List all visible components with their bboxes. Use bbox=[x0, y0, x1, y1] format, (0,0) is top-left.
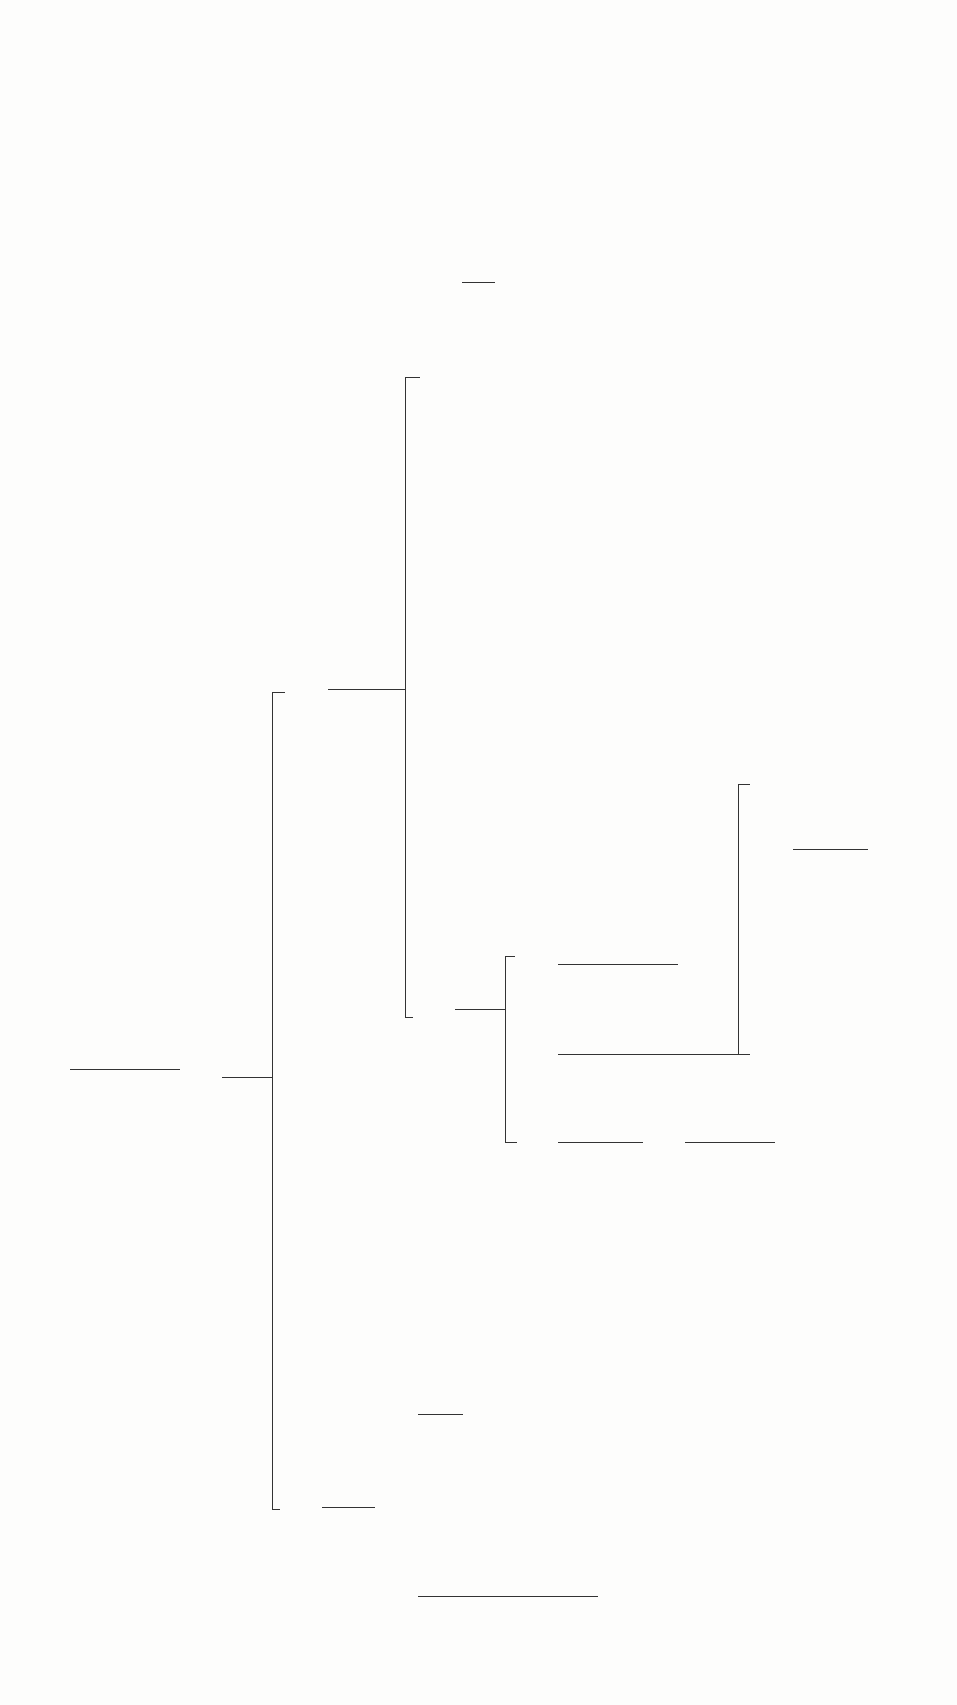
connector bbox=[405, 1017, 413, 1018]
connector bbox=[793, 849, 868, 850]
flowchart-canvas bbox=[0, 0, 957, 1705]
connector bbox=[418, 1414, 463, 1415]
connector bbox=[328, 689, 405, 690]
connector bbox=[685, 1142, 775, 1143]
connector bbox=[505, 1142, 517, 1143]
connector bbox=[222, 1077, 272, 1078]
connector bbox=[272, 1509, 280, 1510]
connector bbox=[405, 377, 420, 378]
connector bbox=[738, 1054, 750, 1055]
connector bbox=[558, 964, 678, 965]
connector bbox=[418, 1596, 598, 1597]
connector bbox=[558, 1054, 738, 1055]
connector bbox=[738, 785, 739, 1055]
connector bbox=[455, 1009, 505, 1010]
connector bbox=[505, 957, 506, 1143]
connector bbox=[558, 1142, 643, 1143]
connector bbox=[505, 956, 515, 957]
connector bbox=[462, 282, 495, 283]
connector bbox=[738, 784, 750, 785]
connector bbox=[322, 1507, 375, 1508]
connector bbox=[70, 1069, 180, 1070]
connector bbox=[272, 692, 285, 693]
connector bbox=[272, 693, 273, 1510]
connector bbox=[405, 378, 406, 1018]
